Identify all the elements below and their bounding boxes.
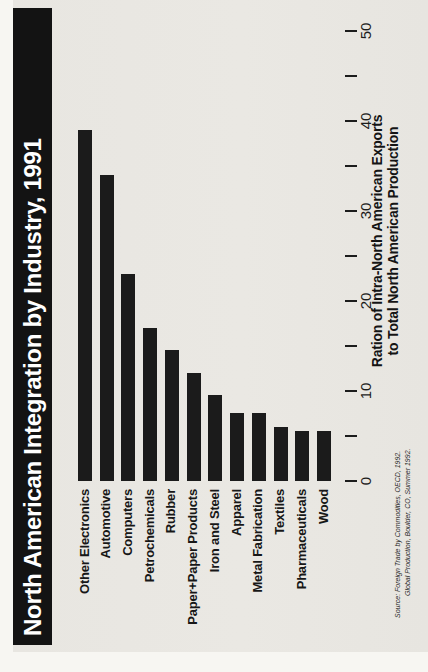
x-tick-label-0: 0	[357, 461, 374, 501]
category-label-iron-and-steel: Iron and Steel	[206, 489, 224, 652]
x-tick-15	[345, 345, 357, 347]
category-label-metal-fabrication: Metal Fabrication	[249, 489, 267, 652]
x-tick-10	[345, 390, 357, 392]
chart-title: North American Integration by Industry, …	[19, 138, 47, 636]
source-line2: Global Production, Boulder, CO, Summer 1…	[403, 449, 413, 596]
x-tick-35	[345, 165, 357, 167]
category-label-wood: Wood	[315, 489, 333, 652]
bar-paper-paper-products	[187, 373, 201, 481]
x-tick-50	[345, 30, 357, 32]
bar-metal-fabrication	[252, 414, 266, 482]
bar-iron-and-steel	[208, 396, 222, 482]
bar-wood	[317, 432, 331, 482]
category-label-automotive: Automotive	[97, 489, 115, 652]
bar-automotive	[100, 175, 114, 481]
x-axis-title-line2: to Total North American Production	[385, 51, 401, 431]
x-tick-45	[345, 75, 357, 77]
x-axis-title-line1: Ration of Intra-North American Exports	[369, 51, 385, 431]
category-label-pharmaceuticals: Pharmaceuticals	[293, 489, 311, 652]
x-tick-5	[345, 435, 357, 437]
bar-rubber	[165, 351, 179, 482]
bar-other-electronics	[78, 130, 92, 481]
chart-title-band: North American Integration by Industry, …	[13, 8, 52, 645]
scanned-page: North American Integration by Industry, …	[0, 0, 428, 672]
x-tick-0	[345, 480, 357, 482]
x-tick-40	[345, 120, 357, 122]
x-tick-20	[345, 300, 357, 302]
category-label-rubber: Rubber	[162, 489, 180, 652]
bar-apparel	[230, 414, 244, 482]
x-tick-label-50: 50	[357, 11, 374, 51]
category-label-other-electronics: Other Electronics	[76, 489, 94, 652]
bar-pharmaceuticals	[295, 432, 309, 482]
category-label-apparel: Apparel	[228, 489, 246, 652]
bar-computers	[121, 274, 135, 481]
rotated-chart-canvas: North American Integration by Industry, …	[0, 0, 428, 672]
x-tick-30	[345, 210, 357, 212]
category-label-computers: Computers	[119, 489, 137, 652]
category-label-petrochemicals: Petrochemicals	[141, 489, 159, 652]
x-axis-title: Ration of Intra-North American Exports t…	[369, 51, 401, 431]
x-tick-25	[345, 255, 357, 257]
bar-petrochemicals	[143, 328, 157, 481]
category-label-textiles: Textiles	[271, 489, 289, 652]
bar-textiles	[274, 427, 288, 481]
category-label-paper-paper-products: Paper+Paper Products	[184, 489, 202, 652]
source-line1: Source: Foreign Trade by Commodities, OE…	[393, 449, 403, 618]
source-note: Source: Foreign Trade by Commodities, OE…	[393, 449, 412, 618]
